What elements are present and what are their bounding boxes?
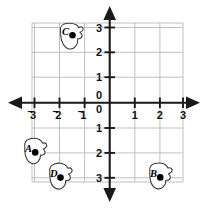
y-axis-label-pos-3: 3 [96, 22, 102, 34]
y-axis-label-neg-1: 1 [96, 122, 102, 134]
y-axis-label-zero-lower: 0 [96, 103, 102, 115]
point-label-b: B [149, 168, 157, 179]
point-label-c: C [62, 26, 70, 37]
y-axis-label-zero-upper: 0 [96, 89, 102, 101]
data-point-a-group[interactable]: A [24, 138, 47, 163]
point-marker-d[interactable] [57, 174, 64, 181]
x-axis-negative-labels: – 3 – 2 – 1 [28, 105, 87, 121]
data-point-b-group[interactable]: B [149, 163, 172, 189]
x-axis-right-arrow-icon [186, 97, 200, 110]
x-axis-label-neg-1: 1 [80, 109, 86, 121]
point-marker-b[interactable] [157, 174, 164, 181]
data-point-c-group[interactable]: C [60, 23, 83, 49]
x-axis-label-neg-2: 2 [55, 109, 61, 121]
data-point-d-group[interactable]: D [49, 163, 72, 189]
y-axis-label-neg-3: 3 [96, 172, 102, 184]
x-axis-label-pos-3: 3 [180, 109, 186, 121]
coordinate-grid-figure: – 3 – 2 – 1 1 2 3 3 2 1 0 0 1 2 3 [0, 0, 208, 208]
x-axis-label-pos-1: 1 [132, 109, 138, 121]
y-axis-label-neg-2: 2 [96, 147, 102, 159]
x-axis-label-pos-2: 2 [157, 109, 163, 121]
x-axis-left-arrow-icon [8, 97, 22, 110]
y-axis-label-pos-1: 1 [96, 71, 102, 83]
y-axis-label-pos-2: 2 [96, 46, 102, 58]
point-marker-c[interactable] [69, 32, 76, 39]
y-axis-positive-labels: 3 2 1 0 [96, 22, 102, 101]
point-label-a: A [24, 143, 32, 154]
y-axis-negative-labels: 0 1 2 3 [96, 103, 102, 185]
y-axis-up-arrow-icon [103, 6, 116, 20]
x-axis-positive-labels: 1 2 3 [132, 109, 186, 121]
point-marker-a[interactable] [32, 149, 39, 156]
point-label-d: D [49, 168, 58, 179]
y-axis-down-arrow-icon [103, 188, 116, 202]
x-axis-label-neg-3: 3 [30, 109, 36, 121]
coordinate-plane-svg: – 3 – 2 – 1 1 2 3 3 2 1 0 0 1 2 3 [0, 0, 208, 208]
